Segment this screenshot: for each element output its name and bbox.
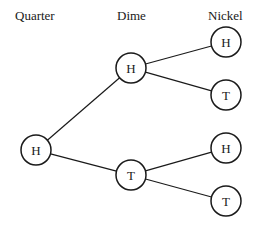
- svg-text:T: T: [222, 88, 230, 103]
- edge-dime_t-nickel_tt: [145, 179, 211, 197]
- node-nickel_ht: T: [211, 80, 241, 110]
- svg-text:T: T: [127, 168, 135, 183]
- node-nickel_th: H: [211, 133, 241, 163]
- svg-text:H: H: [126, 61, 135, 76]
- edge-root-dime_t: [51, 154, 117, 171]
- node-root: H: [21, 135, 51, 165]
- edge-dime_h-nickel_hh: [145, 46, 211, 64]
- edge-dime_h-nickel_ht: [145, 72, 211, 91]
- node-nickel_hh: H: [211, 27, 241, 57]
- node-dime_h: H: [116, 53, 146, 83]
- edge-root-dime_h: [47, 78, 119, 140]
- svg-text:H: H: [221, 141, 230, 156]
- svg-text:H: H: [221, 35, 230, 50]
- svg-text:T: T: [222, 194, 230, 209]
- node-nickel_tt: T: [211, 186, 241, 216]
- node-dime_t: T: [116, 160, 146, 190]
- edge-dime_t-nickel_th: [145, 152, 211, 171]
- svg-text:H: H: [31, 143, 40, 158]
- probability-tree: HHTHTHT: [0, 0, 258, 226]
